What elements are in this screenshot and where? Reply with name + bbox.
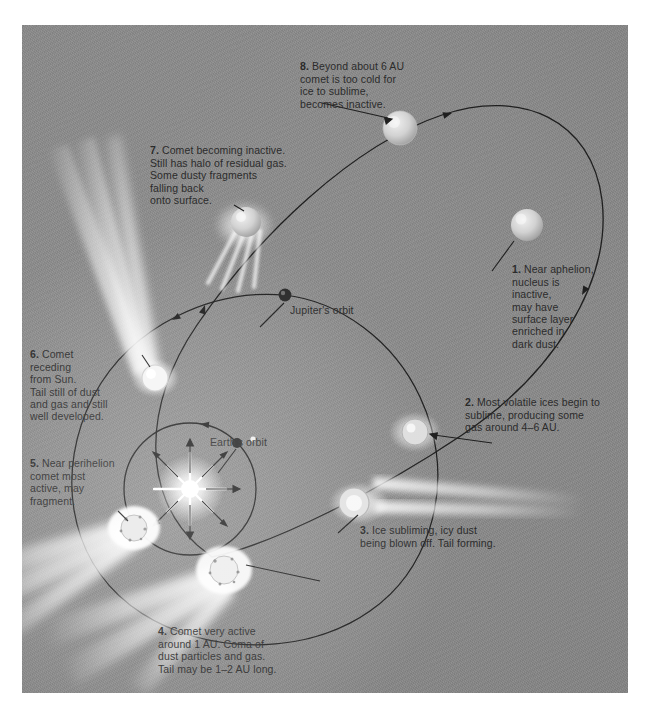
figure-root: 8.Beyond about 6 AU comet is too cold fo… — [0, 0, 647, 709]
step-label-2: 2.Most volatile ices begin to sublime, p… — [465, 384, 628, 434]
step-text-5: Near perihelion comet most active, may f… — [30, 457, 115, 506]
step-number-3: 3. — [360, 524, 369, 536]
step-text-4: Comet very active around 1 AU. Coma of d… — [158, 625, 277, 674]
step-text-1: Near aphelion, nucleus is inactive, may … — [512, 263, 594, 349]
step-text-2: Most volatile ices begin to sublime, pro… — [465, 396, 600, 433]
earths-orbit-label: Earth's orbit — [210, 436, 267, 448]
leader-step4 — [246, 565, 320, 581]
jupiter-highlight — [281, 291, 285, 295]
jupiters-orbit-label: Jupiter's orbit — [290, 304, 354, 316]
step-text-7: Comet becoming inactive. Still has halo … — [150, 144, 287, 206]
step-text-8: Beyond about 6 AU comet is too cold for … — [300, 60, 404, 109]
step-text-3: Ice subliming, icy dust being blown off.… — [360, 524, 496, 548]
leader-step1 — [492, 241, 514, 271]
step-number-7: 7. — [150, 144, 159, 156]
comet-step1 — [511, 209, 543, 241]
step-number-4: 4. — [158, 625, 167, 637]
comet-step2 — [389, 412, 441, 452]
earth-orbit-arrowhead — [200, 421, 210, 429]
diagram-panel: 8.Beyond about 6 AU comet is too cold fo… — [22, 25, 628, 693]
leader-jupiter — [260, 303, 284, 327]
step-text-6: Comet receding from Sun. Tail still of d… — [30, 348, 108, 422]
jupiter-planet — [279, 289, 292, 302]
step-number-8: 8. — [300, 60, 309, 72]
comet-step7 — [208, 201, 274, 291]
step-label-6: 6.Comet receding from Sun. Tail still of… — [30, 336, 148, 423]
step-label-7: 7.Comet becoming inactive. Still has hal… — [150, 132, 355, 206]
step-label-1: 1.Near aphelion, nucleus is inactive, ma… — [512, 251, 620, 350]
step-number-5: 5. — [30, 457, 39, 469]
comet-aphelion-step8 — [383, 111, 417, 145]
step-label-4: 4.Comet very active around 1 AU. Coma of… — [158, 613, 336, 675]
step-number-1: 1. — [512, 263, 521, 275]
step-label-8: 8.Beyond about 6 AU comet is too cold fo… — [300, 48, 475, 110]
step-label-5: 5.Near perihelion comet most active, may… — [30, 445, 142, 507]
step-number-2: 2. — [465, 396, 474, 408]
step-label-3: 3.Ice subliming, icy dust being blown of… — [360, 512, 560, 549]
step-number-6: 6. — [30, 348, 39, 360]
